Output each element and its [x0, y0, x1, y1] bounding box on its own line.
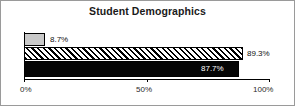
bar-series-2 — [24, 47, 243, 60]
plot-area: 8.7% 89.3% 87.7% — [24, 32, 269, 79]
x-tick-mark-0 — [24, 79, 25, 82]
x-tick-label-0: 0% — [20, 85, 32, 94]
bar-label-series-1: 8.7% — [50, 33, 68, 46]
x-tick-mark-50 — [147, 79, 148, 82]
x-tick-mark-100 — [269, 79, 270, 82]
bar-label-series-2: 89.3% — [247, 47, 270, 60]
x-tick-label-100: 100% — [253, 85, 273, 94]
chart-container: Student Demographics 8.7% 89.3% 87.7% 0%… — [0, 0, 295, 106]
x-tick-label-50: 50% — [136, 85, 152, 94]
bar-label-series-3: 87.7% — [201, 61, 224, 77]
chart-title: Student Demographics — [1, 5, 294, 17]
bar-series-1 — [24, 33, 45, 46]
